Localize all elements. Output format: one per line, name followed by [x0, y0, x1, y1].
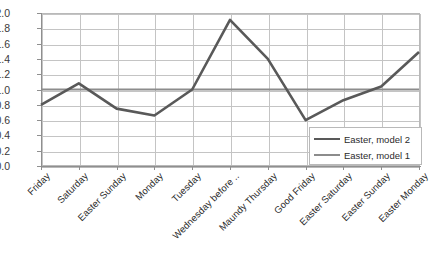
y-axis-tick-label: 1.2 [0, 69, 10, 80]
line-chart: 0.00.20.40.60.81.01.21.41.61.82.0 Friday… [0, 0, 433, 253]
x-axis-category-label: Friday [26, 171, 52, 197]
x-axis-tick [419, 166, 420, 170]
series-line-model-2 [41, 20, 419, 120]
x-axis-category-label: Monday [134, 171, 165, 202]
y-axis-tick-label: 1.0 [0, 84, 10, 95]
y-axis-tick-label: 1.4 [0, 54, 10, 65]
x-axis-tick [154, 166, 155, 170]
x-axis-tick [79, 166, 80, 170]
legend-label-series-1: Easter, model 1 [344, 150, 410, 161]
y-axis-tick-label: 0.4 [0, 130, 10, 141]
y-axis-tick-label: 1.6 [0, 38, 10, 49]
y-axis-tick-label: 0.8 [0, 100, 10, 111]
y-axis-tick-label: 1.8 [0, 23, 10, 34]
x-axis-category-label: Wednesday before .. [171, 171, 241, 241]
legend-label-series-2: Easter, model 2 [344, 134, 410, 145]
legend-item-series-1[interactable]: Easter, model 1 [314, 147, 417, 163]
y-axis-tick-label: 0.6 [0, 115, 10, 126]
x-axis-tick [268, 166, 269, 170]
legend-swatch-series-2 [314, 138, 340, 140]
legend-item-series-2[interactable]: Easter, model 2 [314, 131, 417, 147]
x-axis-tick [343, 166, 344, 170]
x-axis-tick [117, 166, 118, 170]
legend: Easter, model 2 Easter, model 1 [309, 127, 422, 165]
legend-swatch-series-1 [314, 154, 340, 156]
x-axis-tick [41, 166, 42, 170]
y-axis-tick-label: 0.2 [0, 145, 10, 156]
x-axis-tick [381, 166, 382, 170]
x-axis-category-label: Saturday [55, 171, 90, 206]
x-axis-tick [306, 166, 307, 170]
x-axis-tick [230, 166, 231, 170]
x-axis-category-label: Tuesday [170, 171, 203, 204]
x-axis-line [41, 166, 421, 167]
y-axis-tick-label: 2.0 [0, 8, 10, 19]
y-axis-tick-label: 0.0 [0, 161, 10, 172]
x-axis-tick [192, 166, 193, 170]
